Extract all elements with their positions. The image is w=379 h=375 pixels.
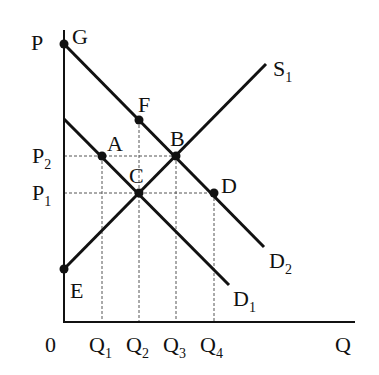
label-f: F	[138, 92, 150, 117]
supply-demand-diagram: P Q 0 G F B A C D E S1 D2 D1 P2 P1 Q1 Q2…	[0, 0, 379, 375]
label-s1: S1	[273, 56, 292, 85]
point-d	[210, 189, 219, 198]
label-c: C	[129, 163, 144, 188]
label-d1: D1	[233, 286, 256, 315]
label-q4: Q4	[200, 332, 223, 361]
origin-label: 0	[45, 332, 56, 357]
point-a	[98, 152, 107, 161]
label-g: G	[72, 24, 88, 49]
label-a: A	[107, 131, 123, 156]
label-e: E	[70, 278, 83, 303]
curves	[64, 44, 266, 285]
supply-curve-s1	[64, 64, 266, 269]
y-axis-label: P	[31, 30, 43, 55]
x-axis-label: Q	[335, 332, 351, 357]
point-g	[60, 40, 69, 49]
axes	[63, 30, 355, 322]
label-q2: Q2	[126, 332, 149, 361]
label-b: B	[170, 126, 185, 151]
guide-lines	[64, 120, 214, 322]
point-c	[135, 189, 144, 198]
label-q3: Q3	[163, 332, 186, 361]
label-d2: D2	[269, 248, 292, 277]
label-d: D	[221, 173, 237, 198]
demand-curve-d1	[64, 119, 229, 285]
demand-curve-d2	[64, 44, 264, 247]
label-p2: P2	[32, 143, 51, 172]
point-b	[172, 152, 181, 161]
label-q1: Q1	[89, 332, 112, 361]
point-e	[60, 265, 69, 274]
label-p1: P1	[32, 180, 51, 209]
